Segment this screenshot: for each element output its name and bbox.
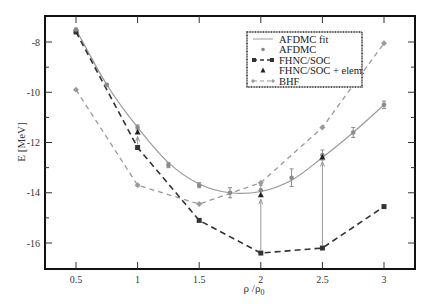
afdmc-marker	[105, 82, 110, 87]
y-tick-label: -10	[27, 87, 40, 98]
legend-square	[252, 58, 256, 62]
energy-density-chart: 0.511.522.53-8-10-12-14-16 AFDMC fitAFDM…	[0, 0, 429, 304]
x-tick-label: 2.5	[316, 274, 329, 285]
legend-label: FHNC/SOC	[279, 55, 330, 66]
legend-square	[270, 58, 274, 62]
afdmc-marker	[74, 27, 79, 32]
afdmc-marker	[197, 183, 202, 188]
fhnc-soc-marker	[382, 204, 387, 209]
fhnc-soc-marker	[197, 218, 202, 223]
legend-label: AFDMC	[279, 44, 316, 55]
y-axis-label: E [MeV]	[15, 122, 27, 161]
afdmc-marker	[382, 103, 387, 108]
y-tick-label: -16	[27, 238, 40, 249]
afdmc-marker	[228, 190, 233, 195]
legend-label: AFDMC fit	[279, 34, 328, 45]
fhnc-soc-marker	[135, 145, 140, 150]
legend-label: FHNC/SOC + elem.	[279, 65, 365, 76]
afdmc-marker	[166, 163, 171, 168]
fhnc-soc-marker	[258, 251, 263, 256]
x-tick-label: 1.5	[193, 274, 206, 285]
y-tick-label: -8	[32, 37, 40, 48]
legend-label: BHF	[279, 76, 300, 87]
x-tick-label: 1	[135, 274, 140, 285]
x-tick-label: 0.5	[70, 274, 83, 285]
afdmc-marker	[289, 175, 294, 180]
fhnc-soc-marker	[320, 246, 325, 251]
legend-swatch-afdmc	[261, 48, 265, 52]
y-tick-label: -14	[27, 187, 40, 198]
legend: AFDMC fitAFDMCFHNC/SOCFHNC/SOC + elem.BH…	[247, 32, 365, 87]
y-tick-label: -12	[27, 137, 40, 148]
fhnc-soc-elem-marker	[258, 192, 264, 198]
afdmc-marker	[351, 130, 356, 135]
x-tick-label: 3	[382, 274, 387, 285]
bhf-marker	[196, 201, 202, 207]
